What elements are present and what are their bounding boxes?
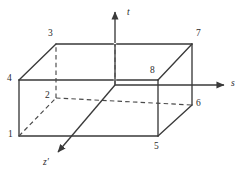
axis-label-z-prime: z′ bbox=[43, 158, 49, 168]
vertex-label-6: 6 bbox=[196, 99, 201, 109]
vertex-label-3: 3 bbox=[48, 29, 53, 39]
axis-label-s: s bbox=[231, 79, 235, 89]
figure-canvas: 1 2 3 4 5 6 7 8 t s z′ bbox=[0, 0, 245, 178]
axis-label-t: t bbox=[127, 8, 130, 18]
edge-right-top-depth bbox=[158, 44, 192, 80]
edge-left-top-depth bbox=[19, 44, 56, 80]
vertex-label-1: 1 bbox=[8, 130, 13, 140]
axis-line-zprime bbox=[58, 85, 115, 152]
vertex-label-4: 4 bbox=[7, 74, 12, 84]
vertex-label-2: 2 bbox=[45, 91, 50, 101]
vertex-label-5: 5 bbox=[154, 142, 159, 152]
vertex-label-7: 7 bbox=[196, 29, 201, 39]
box-diagram-svg bbox=[0, 0, 245, 178]
edge-left-bottom-depth bbox=[19, 98, 56, 136]
vertex-label-8: 8 bbox=[150, 66, 155, 76]
edge-right-bottom-depth bbox=[158, 105, 192, 136]
edge-bottom-back bbox=[56, 98, 192, 105]
